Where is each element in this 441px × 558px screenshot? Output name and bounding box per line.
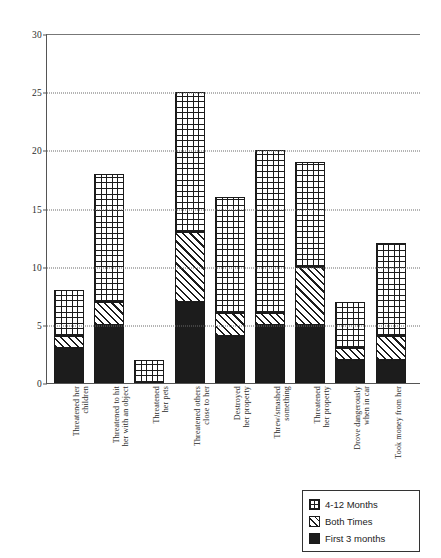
x-axis-label-5: Destroyedher property [233, 386, 252, 504]
bar-segment-first [255, 325, 285, 383]
x-axis-label-line: Took money from her [394, 386, 403, 504]
bar-segment-both [54, 336, 84, 348]
y-tick-label: 30 [32, 30, 42, 40]
y-tick-mark [43, 35, 47, 36]
x-axis-label-line: her pets [162, 386, 171, 504]
bar-segment-both [335, 348, 365, 360]
y-tick-label: 25 [32, 88, 42, 98]
x-axis-label-1: Threatened herchildren [72, 386, 91, 504]
legend-swatch-first-icon [309, 533, 320, 544]
bar-segment-months [94, 174, 124, 302]
legend: 4-12 Months Both Times First 3 months [302, 490, 420, 552]
stacked-bar-chart: 051015202530 Threatened herchildrenThrea… [0, 0, 441, 558]
legend-label: First 3 months [325, 533, 385, 544]
x-axis-label-line: Threatened her [72, 386, 81, 504]
gridline [47, 151, 420, 152]
y-tick-label: 5 [37, 321, 42, 331]
bar-segment-first [54, 348, 84, 383]
x-axis-label-line: Drove dangerously [353, 386, 362, 504]
bar-4 [175, 92, 205, 383]
bar-segment-both [376, 336, 406, 359]
x-axis-label-line: Destroyed [233, 386, 242, 504]
bar-segment-first [295, 325, 325, 383]
legend-item: 4-12 Months [309, 496, 413, 513]
y-tick-label: 15 [32, 205, 42, 215]
bar-8 [335, 302, 365, 383]
x-axis-label-6: Threw/smashedsomething [273, 386, 292, 504]
legend-swatch-both-icon [309, 516, 320, 527]
gridline [47, 209, 420, 210]
x-axis-label-4: Threatened othersclose to her [193, 386, 212, 504]
x-axis-line [46, 383, 420, 384]
x-axis-labels: Threatened herchildrenThreatened to hith… [46, 386, 420, 504]
x-axis-label-9: Took money from her [394, 386, 403, 504]
bar-segment-first [175, 302, 205, 383]
y-tick-mark [43, 151, 47, 152]
bar-segment-months [175, 92, 205, 232]
bar-segment-months [54, 290, 84, 337]
y-tick-mark [43, 267, 47, 268]
bar-segment-months [255, 150, 285, 313]
legend-swatch-months-icon [309, 499, 320, 510]
bar-segment-both [255, 313, 285, 325]
legend-label: Both Times [325, 516, 373, 527]
y-tick-label: 10 [32, 263, 42, 273]
bar-segment-both [94, 302, 124, 325]
x-axis-label-8: Drove dangerouslywhen in car [353, 386, 372, 504]
x-axis-label-line: Threatened [152, 386, 161, 504]
bar-segment-first [215, 336, 245, 383]
y-tick-label: 0 [37, 379, 42, 389]
bar-2 [94, 174, 124, 383]
gridline [47, 267, 420, 268]
legend-label: 4-12 Months [325, 499, 378, 510]
bar-segment-both [295, 267, 325, 325]
bar-segment-first [94, 325, 124, 383]
x-axis-label-line: Threatened [313, 386, 322, 504]
x-axis-label-line: when in car [363, 386, 372, 504]
x-axis-label-line: Threatened others [193, 386, 202, 504]
bar-segment-first [335, 360, 365, 383]
bar-5 [215, 197, 245, 383]
bar-segment-months [134, 360, 164, 383]
x-axis-label-line: her property [242, 386, 251, 504]
bar-3 [134, 360, 164, 383]
bar-7 [295, 162, 325, 383]
x-axis-label-line: Threatened to hit [112, 386, 121, 504]
legend-item: Both Times [309, 513, 413, 530]
y-tick-label: 20 [32, 146, 42, 156]
bar-9 [376, 243, 406, 383]
x-axis-label-line: children [81, 386, 90, 504]
gridline [47, 93, 420, 94]
x-axis-label-7: Threatenedher property [313, 386, 332, 504]
bar-segment-first [376, 360, 406, 383]
x-axis-label-line: her property [323, 386, 332, 504]
bar-segment-months [215, 197, 245, 313]
y-tick-mark [43, 209, 47, 210]
bar-segment-months [295, 162, 325, 267]
y-tick-mark [43, 325, 47, 326]
plot-area: 051015202530 [46, 34, 420, 383]
x-axis-label-line: something [282, 386, 291, 504]
bar-1 [54, 290, 84, 383]
x-axis-label-2: Threatened to hither with an object [112, 386, 131, 504]
x-axis-label-line: Threw/smashed [273, 386, 282, 504]
legend-item: First 3 months [309, 530, 413, 547]
x-axis-label-line: close to her [202, 386, 211, 504]
bar-segment-months [376, 243, 406, 336]
gridline [47, 325, 420, 326]
y-tick-mark [43, 93, 47, 94]
x-axis-label-line: her with an object [122, 386, 131, 504]
x-axis-label-3: Threatenedher pets [152, 386, 171, 504]
